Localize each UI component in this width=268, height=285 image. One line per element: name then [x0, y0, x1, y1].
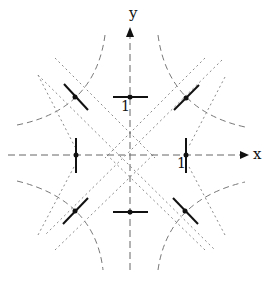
x-axis-label: x	[253, 147, 261, 162]
curve-upper-right	[158, 35, 245, 127]
y-unit-label: 1	[121, 99, 130, 113]
y-axis-label: y	[129, 6, 137, 21]
dotted-offset-4	[188, 77, 225, 148]
point-lower-left	[73, 209, 78, 214]
x-axis-arrow-icon	[240, 151, 249, 159]
dotted-offset-8	[105, 153, 205, 250]
axes	[8, 36, 240, 270]
point-upper-left	[73, 95, 78, 100]
point-bottom	[128, 210, 133, 215]
dotted-offset-5	[38, 165, 75, 235]
curve-upper-left	[17, 35, 105, 125]
tangent-segments	[63, 84, 199, 224]
dotted-offset-7	[188, 165, 225, 235]
dotted-offset-1	[55, 58, 155, 158]
diagram-canvas: y x 1 1	[0, 0, 268, 285]
x-unit-label: 1	[177, 156, 186, 170]
point-upper-right	[184, 96, 189, 101]
y-axis-arrow-icon	[126, 27, 134, 37]
diagonal-main-up	[45, 60, 222, 235]
dotted-offset-6	[55, 153, 155, 250]
dotted-offset-3	[105, 58, 205, 158]
diagram-svg	[0, 0, 268, 285]
dotted-offset-2	[38, 75, 75, 147]
curve-lower-right	[158, 182, 245, 270]
point-left	[74, 153, 79, 158]
dashed-curves	[17, 35, 245, 270]
point-lower-right	[183, 209, 188, 214]
